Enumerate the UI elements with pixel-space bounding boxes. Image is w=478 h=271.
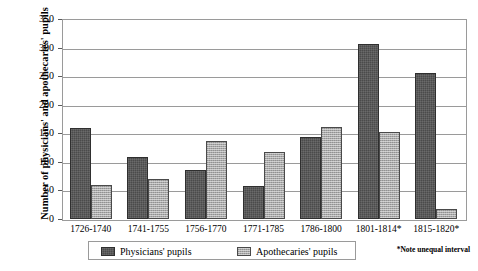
legend-label-apothecaries: Apothecaries' pupils xyxy=(256,246,338,257)
legend-swatch-apothecaries xyxy=(237,247,251,256)
legend-entry-physicians: Physicians' pupils xyxy=(101,245,192,257)
bar xyxy=(300,137,321,219)
x-tick-label: 1786-1800 xyxy=(292,224,350,234)
x-tick-label: 1741-1755 xyxy=(120,224,178,234)
y-tick-label: 300 xyxy=(18,42,54,53)
bar xyxy=(264,152,285,219)
bar xyxy=(358,44,379,219)
bar xyxy=(185,170,206,219)
bar xyxy=(415,73,436,219)
x-tick-label: 1771-1785 xyxy=(235,224,293,234)
x-tick-label: 1815-1820* xyxy=(407,224,465,234)
bar xyxy=(321,127,342,219)
bar xyxy=(148,179,169,219)
legend-swatch-physicians xyxy=(101,247,115,256)
y-tick-label: 200 xyxy=(18,99,54,110)
legend-label-physicians: Physicians' pupils xyxy=(120,246,192,257)
x-tick-label: 1801-1814* xyxy=(350,224,408,234)
bar xyxy=(127,157,148,219)
y-tick-label: 150 xyxy=(18,127,54,138)
bar-series-layer xyxy=(62,19,465,219)
y-tick-label: 250 xyxy=(18,70,54,81)
footnote: *Note unequal interval xyxy=(397,245,470,254)
bar-chart: Number of physicians' and apothecaries' … xyxy=(0,0,478,271)
bar xyxy=(91,185,112,219)
x-tick-label: 1726-1740 xyxy=(62,224,120,234)
bar xyxy=(436,209,457,219)
y-tick-label: 50 xyxy=(18,184,54,195)
y-tick-label: 100 xyxy=(18,156,54,167)
x-tick-label: 1756-1770 xyxy=(177,224,235,234)
legend-entry-apothecaries: Apothecaries' pupils xyxy=(237,245,338,257)
legend: Physicians' pupils Apothecaries' pupils xyxy=(88,241,356,260)
y-tick-label: 0 xyxy=(18,213,54,224)
y-tick-label: 350 xyxy=(18,13,54,24)
bar xyxy=(206,141,227,219)
bar xyxy=(70,128,91,219)
bar xyxy=(379,132,400,219)
bar xyxy=(243,186,264,219)
